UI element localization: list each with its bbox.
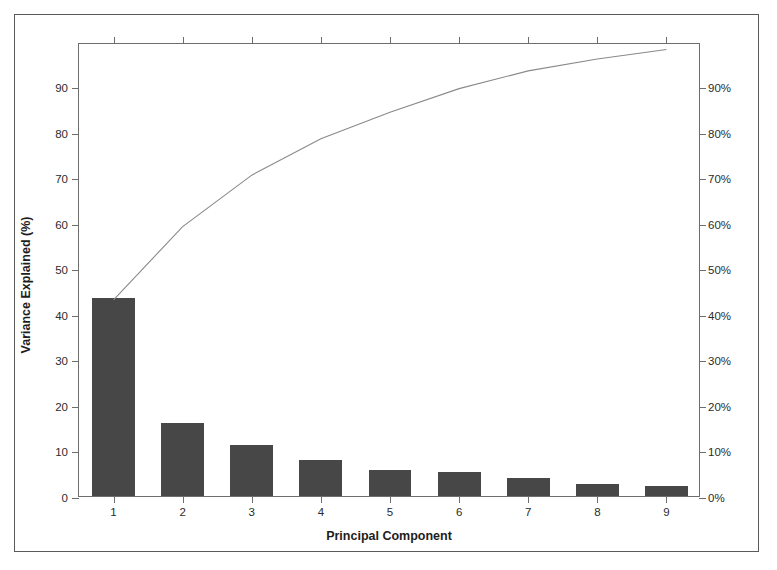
x-tick-label: 1	[110, 506, 116, 518]
y-tick-label-left: 80	[55, 128, 68, 140]
cumulative-line-series	[79, 44, 701, 498]
y-tick-label-right: 40%	[708, 310, 731, 322]
y-tick-label-left: 40	[55, 310, 68, 322]
x-tick	[528, 496, 529, 503]
x-tick-top	[114, 37, 115, 44]
y-tick-left	[72, 179, 79, 180]
y-tick-right	[699, 498, 706, 499]
y-tick-label-left: 30	[55, 355, 68, 367]
x-tick-label: 7	[525, 506, 531, 518]
x-tick-label: 8	[594, 506, 600, 518]
x-tick-label: 6	[456, 506, 462, 518]
x-tick-top	[597, 37, 598, 44]
y-tick-label-right: 60%	[708, 219, 731, 231]
pareto-chart-figure: Variance Explained (%) Principal Compone…	[0, 0, 777, 570]
y-tick-label-left: 10	[55, 446, 68, 458]
x-tick-label: 9	[663, 506, 669, 518]
y-axis-label: Variance Explained (%)	[19, 217, 33, 354]
y-tick-right	[699, 88, 706, 89]
x-axis-label: Principal Component	[326, 529, 452, 543]
y-tick-left	[72, 498, 79, 499]
y-tick-left	[72, 270, 79, 271]
y-tick-label-left: 0	[62, 492, 68, 504]
x-tick-top	[390, 37, 391, 44]
y-tick-label-right: 80%	[708, 128, 731, 140]
x-tick-top	[459, 37, 460, 44]
y-tick-right	[699, 134, 706, 135]
y-tick-left	[72, 88, 79, 89]
x-tick	[183, 496, 184, 503]
x-tick-top	[528, 37, 529, 44]
y-tick-left	[72, 407, 79, 408]
x-tick	[597, 496, 598, 503]
x-tick-label: 5	[387, 506, 393, 518]
x-tick	[252, 496, 253, 503]
y-tick-label-right: 20%	[708, 401, 731, 413]
x-tick-label: 3	[249, 506, 255, 518]
y-tick-label-right: 10%	[708, 446, 731, 458]
x-tick-top	[183, 37, 184, 44]
y-tick-left	[72, 134, 79, 135]
x-tick	[390, 496, 391, 503]
x-tick-label: 4	[318, 506, 324, 518]
x-tick	[459, 496, 460, 503]
y-tick-right	[699, 452, 706, 453]
plot-area: 0102030405060708090 0%10%20%30%40%50%60%…	[78, 43, 700, 497]
y-tick-right	[699, 225, 706, 226]
y-tick-right	[699, 270, 706, 271]
x-tick-top	[666, 37, 667, 44]
y-tick-label-right: 70%	[708, 173, 731, 185]
y-tick-right	[699, 179, 706, 180]
y-tick-label-left: 50	[55, 264, 68, 276]
y-tick-right	[699, 407, 706, 408]
y-tick-label-left: 90	[55, 82, 68, 94]
x-tick	[321, 496, 322, 503]
x-tick	[666, 496, 667, 503]
x-tick-top	[252, 37, 253, 44]
y-tick-label-right: 30%	[708, 355, 731, 367]
y-tick-left	[72, 361, 79, 362]
x-tick-top	[321, 37, 322, 44]
y-tick-label-left: 60	[55, 219, 68, 231]
y-tick-right	[699, 316, 706, 317]
y-tick-label-left: 70	[55, 173, 68, 185]
y-tick-label-right: 50%	[708, 264, 731, 276]
y-tick-label-left: 20	[55, 401, 68, 413]
y-tick-left	[72, 225, 79, 226]
y-tick-left	[72, 452, 79, 453]
x-tick-label: 2	[179, 506, 185, 518]
y-tick-left	[72, 316, 79, 317]
y-tick-label-right: 90%	[708, 82, 731, 94]
x-tick	[114, 496, 115, 503]
y-tick-label-right: 0%	[708, 492, 725, 504]
y-tick-right	[699, 361, 706, 362]
